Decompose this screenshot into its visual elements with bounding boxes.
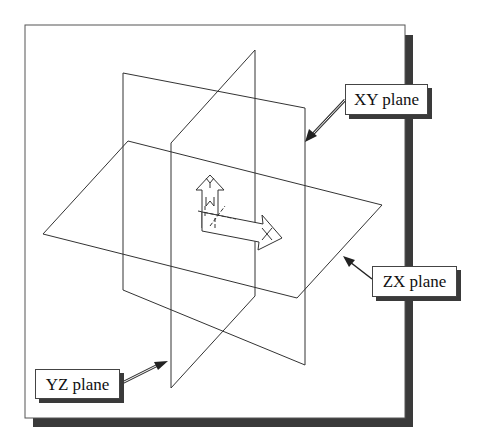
zx-plane-label-text: ZX plane	[383, 273, 447, 290]
yz-plane-label-text: YZ plane	[46, 376, 110, 393]
yz-plane-label: YZ plane	[35, 369, 120, 399]
frame-shadow-bottom	[33, 418, 413, 427]
xy-plane-label-text: XY plane	[354, 91, 419, 108]
datum-planes-diagram: XY plane ZX plane YZ plane	[0, 0, 486, 445]
zx-plane-label: ZX plane	[372, 266, 457, 297]
xy-plane-label: XY plane	[345, 84, 428, 115]
